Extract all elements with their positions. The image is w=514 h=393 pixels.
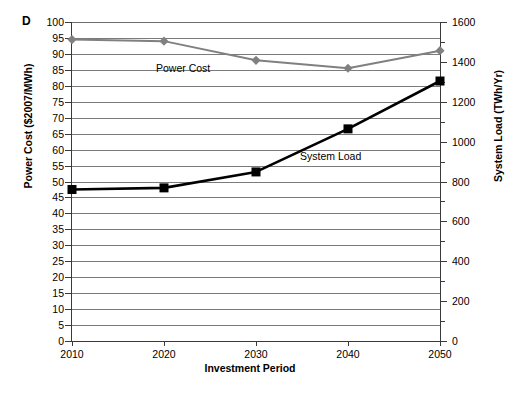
data-series-layer <box>0 0 514 393</box>
data-point-marker <box>436 77 445 86</box>
data-point-marker <box>159 37 168 46</box>
data-point-marker <box>251 56 260 65</box>
data-point-marker <box>68 185 77 194</box>
data-point-marker <box>435 46 444 55</box>
data-point-marker <box>344 124 353 133</box>
series-label-power-cost: Power Cost <box>156 62 210 74</box>
chart-figure: D 05101520253035404550556065707580859095… <box>0 0 514 393</box>
data-point-marker <box>252 167 261 176</box>
data-point-marker <box>343 64 352 73</box>
x-axis-title: Investment Period <box>0 362 500 374</box>
data-point-marker <box>67 35 76 44</box>
left-y-axis-title: Power Cost ($2007/MWh) <box>22 26 34 226</box>
series-label-system-load: System Load <box>300 150 361 162</box>
right-y-axis-title: System Load (TWh/Yr) <box>492 26 504 226</box>
data-point-marker <box>160 183 169 192</box>
